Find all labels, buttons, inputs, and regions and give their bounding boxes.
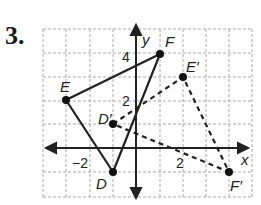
y-tick-4: 4 [122, 49, 130, 65]
axes [46, 25, 248, 198]
label-F-prime: F′ [230, 177, 243, 194]
label-D-prime: D′ [98, 110, 113, 127]
point-F-prime [225, 168, 233, 176]
label-F: F [165, 33, 175, 50]
label-D: D [96, 175, 107, 192]
label-E: E [60, 78, 71, 95]
coordinate-plane: D E F D′ E′ F′ y x 4 2 −2 2 [0, 0, 261, 205]
x-axis-left-arrow-icon [46, 143, 56, 153]
x-tick-neg2: −2 [72, 155, 88, 171]
x-axis-label: x [240, 151, 249, 168]
point-F [156, 50, 164, 58]
point-E [62, 96, 70, 104]
x-tick-2: 2 [176, 155, 184, 171]
y-axis-label: y [141, 31, 151, 48]
y-tick-2: 2 [122, 93, 130, 109]
y-axis-up-arrow-icon [131, 25, 141, 35]
label-E-prime: E′ [186, 58, 200, 75]
point-D [109, 168, 117, 176]
